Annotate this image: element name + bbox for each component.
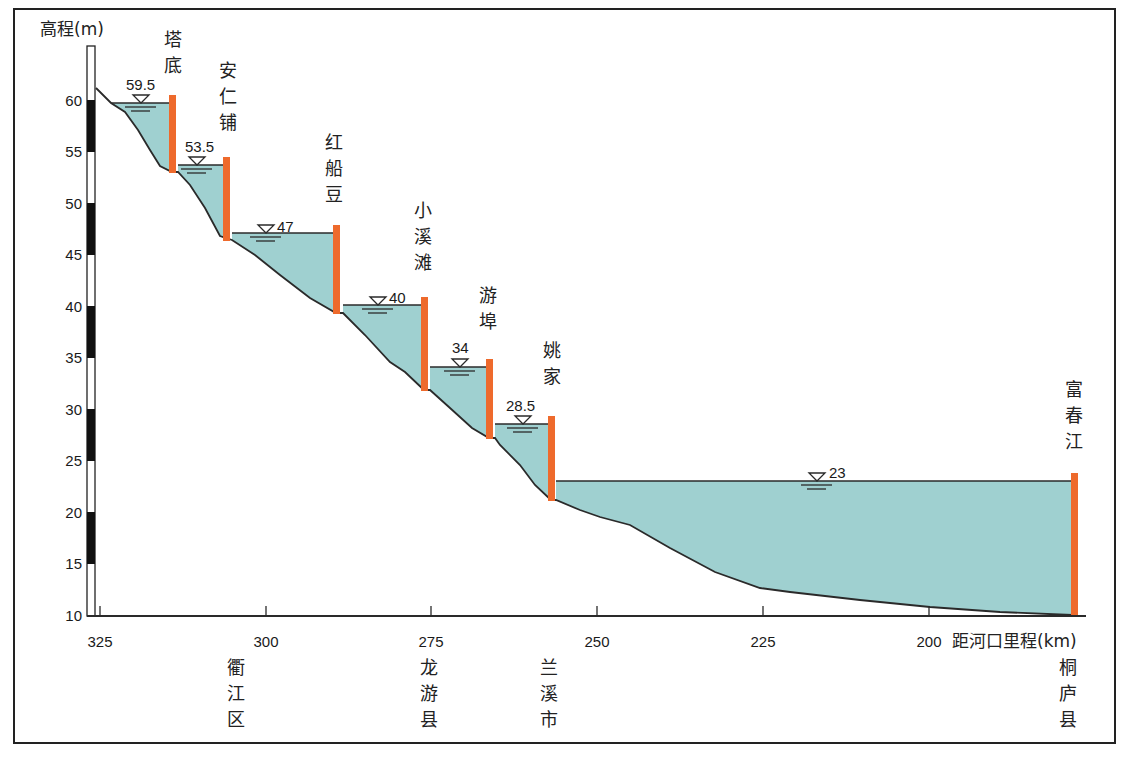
- svg-text:50: 50: [65, 195, 82, 212]
- svg-text:250: 250: [584, 633, 609, 650]
- place-quijiang: 衢 江 区: [227, 657, 245, 730]
- svg-text:龙: 龙: [420, 657, 438, 678]
- river-profile-diagram: 59.5 53.5 47 40 34 28.5 23 塔 底 安 仁 铺 红 船…: [0, 0, 1128, 761]
- svg-text:铺: 铺: [219, 112, 237, 133]
- svg-text:塔: 塔: [164, 29, 182, 50]
- svg-text:安: 安: [219, 60, 237, 81]
- dam-name-fuchunjiang: 富 春 江: [1065, 379, 1083, 452]
- dam-xiaoxitan: [421, 297, 428, 391]
- svg-text:江: 江: [1065, 431, 1083, 452]
- svg-text:325: 325: [87, 633, 112, 650]
- dam-name-hongchuandou: 红 船 豆: [325, 132, 343, 205]
- water-surface-lines: [111, 103, 1072, 481]
- reservoirs: [111, 103, 1072, 615]
- dam-tadi: [169, 95, 176, 173]
- svg-text:20: 20: [65, 504, 82, 521]
- svg-text:区: 区: [227, 709, 245, 730]
- y-axis-scale-bar: [87, 46, 95, 616]
- svg-text:15: 15: [65, 555, 82, 572]
- level-label-youbu: 34: [452, 339, 469, 356]
- dam-anrenpu: [223, 157, 230, 241]
- place-tonglu: 桐 庐 县: [1059, 657, 1077, 730]
- svg-text:游: 游: [479, 285, 497, 306]
- svg-text:底: 底: [164, 55, 182, 76]
- svg-text:溪: 溪: [540, 683, 558, 704]
- svg-text:仁: 仁: [219, 86, 237, 107]
- svg-text:豆: 豆: [325, 184, 343, 205]
- dam-hongchuandou: [333, 225, 340, 314]
- place-lanxi: 兰 溪 市: [540, 657, 558, 730]
- svg-text:家: 家: [543, 366, 561, 387]
- svg-text:市: 市: [540, 709, 558, 730]
- svg-text:225: 225: [750, 633, 775, 650]
- svg-text:45: 45: [65, 246, 82, 263]
- svg-text:10: 10: [65, 607, 82, 624]
- svg-text:游: 游: [420, 683, 438, 704]
- svg-text:小: 小: [414, 200, 432, 221]
- svg-text:35: 35: [65, 349, 82, 366]
- svg-text:25: 25: [65, 452, 82, 469]
- x-axis-label: 距河口里程(km): [952, 631, 1077, 651]
- svg-text:红: 红: [325, 132, 343, 153]
- dam-name-yaojia: 姚 家: [543, 340, 561, 387]
- reservoir-hongchuandou: [232, 233, 336, 313]
- svg-text:兰: 兰: [540, 657, 558, 678]
- y-axis-label: 高程(m): [40, 19, 104, 39]
- dam-yaojia: [548, 416, 555, 501]
- svg-text:滩: 滩: [414, 252, 432, 273]
- svg-text:县: 县: [420, 709, 438, 730]
- svg-text:姚: 姚: [543, 340, 561, 361]
- level-label-tadi: 59.5: [126, 76, 155, 93]
- svg-text:30: 30: [65, 401, 82, 418]
- level-label-fuchunjiang: 23: [829, 464, 846, 481]
- place-longyou: 龙 游 县: [420, 657, 438, 730]
- reservoir-yaojia: [495, 424, 551, 500]
- dam-youbu: [486, 359, 493, 439]
- svg-text:溪: 溪: [414, 226, 432, 247]
- x-axis-tick-marks: [100, 606, 929, 616]
- level-label-xiaoxitan: 40: [389, 289, 406, 306]
- svg-text:埠: 埠: [479, 311, 497, 332]
- reservoir-youbu: [430, 367, 489, 438]
- svg-text:桐: 桐: [1059, 657, 1077, 678]
- dam-name-youbu: 游 埠: [479, 285, 497, 332]
- svg-text:300: 300: [253, 633, 278, 650]
- svg-text:55: 55: [65, 143, 82, 160]
- svg-text:275: 275: [418, 633, 443, 650]
- svg-text:200: 200: [916, 633, 941, 650]
- dam-name-anrenpu: 安 仁 铺: [219, 60, 237, 133]
- level-label-anrenpu: 53.5: [185, 138, 214, 155]
- dam-name-xiaoxitan: 小 溪 滩: [414, 200, 432, 273]
- y-axis-ticks: 60 55 50 45 40 35 30 25 20 15 10: [65, 92, 82, 624]
- level-label-hongchuandou: 47: [277, 218, 294, 235]
- svg-text:江: 江: [227, 683, 245, 704]
- level-label-yaojia: 28.5: [506, 397, 535, 414]
- svg-text:庐: 庐: [1059, 683, 1077, 704]
- svg-text:富: 富: [1065, 379, 1083, 400]
- x-axis-ticks: 325 300 275 250 225 200: [87, 633, 941, 650]
- svg-text:40: 40: [65, 298, 82, 315]
- svg-text:衢: 衢: [227, 657, 245, 678]
- svg-text:县: 县: [1059, 709, 1077, 730]
- svg-text:船: 船: [325, 158, 343, 179]
- dam-fuchunjiang: [1071, 473, 1078, 616]
- dam-name-tadi: 塔 底: [164, 29, 182, 76]
- svg-text:春: 春: [1065, 405, 1083, 426]
- svg-text:60: 60: [65, 92, 82, 109]
